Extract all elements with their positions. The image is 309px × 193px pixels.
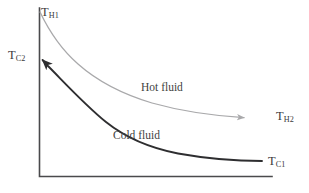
label-t-c1-sub: C1 (276, 160, 286, 169)
label-t-h1-sub: H1 (49, 11, 59, 20)
temperature-profile-figure: TH1 TC2 TH2 TC1 Hot fluid Cold fluid (0, 0, 309, 193)
label-t-c2-sub: C2 (16, 54, 26, 63)
label-t-h2: TH2 (276, 110, 294, 123)
plot-canvas (0, 0, 309, 193)
hot-fluid-curve (40, 12, 244, 118)
label-t-c1: TC1 (268, 155, 286, 168)
hot-fluid-label: Hot fluid (141, 82, 183, 94)
label-t-c2: TC2 (8, 49, 26, 62)
cold-fluid-curve (43, 60, 262, 161)
cold-fluid-label: Cold fluid (113, 130, 160, 142)
label-t-c2-base: T (8, 48, 16, 62)
label-t-c1-base: T (268, 154, 276, 168)
label-t-h2-sub: H2 (284, 115, 294, 124)
label-t-h1: TH1 (41, 6, 59, 19)
label-t-h2-base: T (276, 109, 284, 123)
label-t-h1-base: T (41, 5, 49, 19)
